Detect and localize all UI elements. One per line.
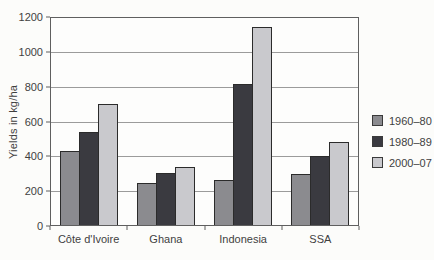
x-category-label: Indonesia	[205, 233, 282, 245]
bar-chart-figure: Yields in kg/ha 020040060080010001200 Cô…	[0, 0, 434, 260]
x-tick-mark	[359, 226, 360, 230]
bar	[137, 183, 157, 225]
y-axis-labels: 020040060080010001200	[0, 17, 47, 226]
bar	[175, 167, 195, 225]
bar-group	[128, 18, 205, 225]
bar	[310, 156, 330, 225]
legend-swatch	[372, 136, 383, 147]
bar	[156, 173, 176, 225]
x-tick-mark	[50, 226, 51, 230]
bar	[252, 27, 272, 225]
y-tick-label: 1200	[19, 11, 43, 23]
bar	[291, 174, 311, 225]
bar-group	[205, 18, 282, 225]
bar	[233, 84, 253, 225]
x-category-label: Ghana	[127, 233, 204, 245]
legend-label: 1980–89	[389, 136, 432, 148]
y-tick-label: 1000	[19, 46, 43, 58]
bar	[329, 142, 349, 225]
bar	[214, 180, 234, 225]
legend-label: 2000–07	[389, 157, 432, 169]
bar-groups	[51, 18, 358, 225]
legend-item: 1980–89	[372, 131, 432, 152]
y-tick-label: 200	[25, 185, 43, 197]
y-tick-label: 600	[25, 116, 43, 128]
bar-group	[281, 18, 358, 225]
x-axis-labels: Côte d'IvoireGhanaIndonesiaSSA	[50, 233, 359, 245]
bar	[60, 151, 80, 225]
bar	[79, 132, 99, 225]
y-tick-label: 800	[25, 81, 43, 93]
x-tick-mark	[127, 226, 128, 230]
legend-swatch	[372, 115, 383, 126]
legend-swatch	[372, 157, 383, 168]
x-category-label: SSA	[282, 233, 359, 245]
y-tick-label: 0	[37, 220, 43, 232]
x-category-label: Côte d'Ivoire	[50, 233, 127, 245]
bar	[98, 104, 118, 225]
plot-area	[50, 17, 359, 226]
legend-item: 1960–80	[372, 110, 432, 131]
y-tick-label: 400	[25, 150, 43, 162]
legend: 1960–801980–892000–07	[372, 110, 432, 173]
x-tick-mark	[204, 226, 205, 230]
legend-label: 1960–80	[389, 115, 432, 127]
x-tick-mark	[281, 226, 282, 230]
bar-group	[51, 18, 128, 225]
legend-item: 2000–07	[372, 152, 432, 173]
